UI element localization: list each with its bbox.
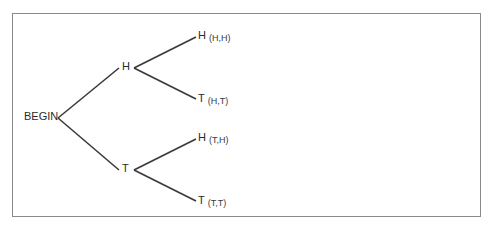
leaf-outcome: (H,H) <box>209 33 231 43</box>
root-node-label: BEGIN <box>24 111 58 122</box>
leaf-hh: H(H,H) <box>198 30 230 41</box>
leaf-label: T <box>198 92 205 104</box>
node-t-label: T <box>122 163 129 174</box>
leaf-outcome: (T,T) <box>208 198 227 208</box>
node-h-label: H <box>122 61 130 72</box>
branch-begin-h <box>58 68 119 118</box>
leaf-outcome: (H,T) <box>208 96 229 106</box>
leaf-label: H <box>198 29 206 41</box>
leaf-label: H <box>198 131 206 143</box>
branch-h-h <box>134 37 196 68</box>
branch-h-t <box>134 68 196 99</box>
leaf-th: H(T,H) <box>198 132 228 143</box>
leaf-outcome: (T,H) <box>209 135 229 145</box>
tree-branches <box>0 0 488 226</box>
branch-t-h <box>134 139 196 170</box>
leaf-ht: T(H,T) <box>198 93 228 104</box>
branch-begin-t <box>58 118 119 170</box>
branch-t-t <box>134 170 196 201</box>
leaf-tt: T(T,T) <box>198 195 226 206</box>
leaf-label: T <box>198 194 205 206</box>
